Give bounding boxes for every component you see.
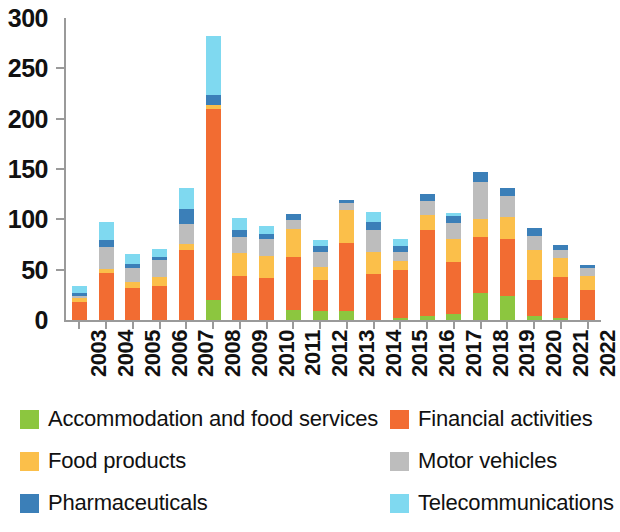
bar-segment <box>527 316 542 320</box>
bar-2004[interactable] <box>99 18 114 320</box>
x-tick-label: 2014 <box>383 330 405 377</box>
bar-segment <box>313 252 328 267</box>
bar-segment <box>500 296 515 320</box>
bar-segment <box>179 244 194 250</box>
bar-2017[interactable] <box>446 18 461 320</box>
legend-item[interactable]: Food products <box>20 440 380 482</box>
bar-segment <box>72 302 87 320</box>
legend-item[interactable]: Telecommunications <box>390 482 605 524</box>
bar-segment <box>99 247 114 269</box>
x-tick-mark <box>453 321 455 329</box>
y-tick-mark <box>56 168 65 170</box>
bar-segment <box>179 188 194 209</box>
bar-segment <box>259 278 274 320</box>
bar-2020[interactable] <box>527 18 542 320</box>
x-tick-mark <box>292 321 294 329</box>
bar-segment <box>232 237 247 252</box>
bar-segment <box>366 222 381 230</box>
bar-segment <box>259 239 274 255</box>
x-tick-mark <box>105 321 107 329</box>
x-tick-mark <box>212 321 214 329</box>
bar-2008[interactable] <box>206 18 221 320</box>
bar-segment <box>473 219 488 237</box>
bar-2012[interactable] <box>313 18 328 320</box>
bar-segment <box>446 239 461 261</box>
legend-item[interactable]: Financial activities <box>390 398 605 440</box>
bar-2011[interactable] <box>286 18 301 320</box>
bar-2006[interactable] <box>152 18 167 320</box>
x-tick-label: 2022 <box>597 330 619 377</box>
y-tick-mark <box>56 118 65 120</box>
legend-swatch-icon <box>390 410 409 429</box>
bar-segment <box>580 276 595 290</box>
legend-column-right: Financial activitiesMotor vehiclesTeleco… <box>390 398 605 524</box>
bar-segment <box>206 300 221 320</box>
bar-segment <box>393 246 408 252</box>
y-tick-mark <box>56 67 65 69</box>
bar-segment <box>99 269 114 273</box>
x-tick-label: 2012 <box>329 330 351 377</box>
legend-label: Motor vehicles <box>418 450 557 472</box>
bar-segment <box>313 280 328 311</box>
bar-segment <box>473 172 488 182</box>
bar-2015[interactable] <box>393 18 408 320</box>
x-axis: 2003200420052006200720082009201020112012… <box>0 328 605 394</box>
bar-segment <box>286 257 301 310</box>
x-tick-label: 2010 <box>276 330 298 377</box>
bar-segment <box>553 250 568 258</box>
bar-segment <box>420 194 435 201</box>
x-tick-mark <box>346 321 348 329</box>
bar-2005[interactable] <box>125 18 140 320</box>
x-tick-mark <box>587 321 589 329</box>
legend-item[interactable]: Pharmaceuticals <box>20 482 380 524</box>
bar-2010[interactable] <box>259 18 274 320</box>
bar-segment <box>366 230 381 251</box>
bar-segment <box>152 249 167 257</box>
bar-2007[interactable] <box>179 18 194 320</box>
x-tick-label: 2006 <box>169 330 191 377</box>
bar-2003[interactable] <box>72 18 87 320</box>
bar-segment <box>179 209 194 224</box>
bar-segment <box>339 203 354 210</box>
x-tick-mark <box>185 321 187 329</box>
bar-2014[interactable] <box>366 18 381 320</box>
x-tick-label: 2021 <box>570 330 592 377</box>
bar-segment <box>206 109 221 300</box>
bar-segment <box>125 268 140 282</box>
bar-segment <box>313 311 328 320</box>
bar-2022[interactable] <box>580 18 595 320</box>
x-tick-label: 2020 <box>543 330 565 377</box>
bar-segment <box>152 277 167 286</box>
bar-segment <box>313 246 328 252</box>
legend-swatch-icon <box>390 494 409 513</box>
x-tick-mark <box>399 321 401 329</box>
legend-item[interactable]: Motor vehicles <box>390 440 605 482</box>
bar-segment <box>500 239 515 295</box>
bar-2019[interactable] <box>500 18 515 320</box>
bar-2021[interactable] <box>553 18 568 320</box>
bar-segment <box>420 316 435 320</box>
bar-segment <box>446 262 461 314</box>
legend-label: Pharmaceuticals <box>48 492 208 514</box>
bar-segment <box>313 267 328 280</box>
x-tick-mark <box>78 321 80 329</box>
bar-segment <box>420 215 435 230</box>
bar-2013[interactable] <box>339 18 354 320</box>
bar-2016[interactable] <box>420 18 435 320</box>
bar-segment <box>99 222 114 240</box>
x-tick-label: 2011 <box>302 330 324 376</box>
legend-label: Food products <box>48 450 186 472</box>
bar-segment <box>72 296 87 298</box>
bar-segment <box>420 230 435 316</box>
bar-segment <box>366 212 381 222</box>
bar-2009[interactable] <box>232 18 247 320</box>
x-tick-mark <box>373 321 375 329</box>
bar-segment <box>393 318 408 320</box>
bar-2018[interactable] <box>473 18 488 320</box>
bar-segment <box>339 200 354 203</box>
bar-segment <box>206 105 221 109</box>
bar-segment <box>72 286 87 293</box>
bar-segment <box>152 260 167 277</box>
legend-item[interactable]: Accommodation and food services <box>20 398 380 440</box>
